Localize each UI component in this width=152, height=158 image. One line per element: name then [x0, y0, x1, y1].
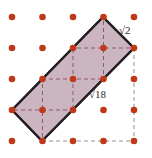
- label-sqrt2: √2: [119, 25, 131, 36]
- lattice-dot: [70, 138, 77, 145]
- lattice-dot: [39, 45, 46, 52]
- lattice-dot: [39, 107, 46, 114]
- lattice-dot: [100, 14, 107, 21]
- sqrt18-text: √18: [89, 88, 106, 100]
- lattice-dot: [70, 14, 77, 21]
- lattice-dot: [131, 14, 138, 21]
- lattice-dot: [100, 76, 107, 83]
- lattice-dot: [131, 107, 138, 114]
- lattice-dot: [100, 138, 107, 145]
- lattice-dot: [9, 76, 16, 83]
- lattice-dot: [131, 76, 138, 83]
- lattice-dot: [9, 45, 16, 52]
- lattice-dot: [131, 45, 138, 52]
- lattice-dot: [39, 14, 46, 21]
- lattice-dot: [9, 14, 16, 21]
- lattice-dot: [70, 76, 77, 83]
- lattice-dot: [9, 107, 16, 114]
- lattice-dot: [70, 45, 77, 52]
- lattice-dot: [9, 138, 16, 145]
- lattice-dot: [70, 107, 77, 114]
- lattice-dot: [100, 107, 107, 114]
- sqrt2-text: √2: [119, 24, 131, 36]
- lattice-dot: [39, 138, 46, 145]
- lattice-dot: [100, 45, 107, 52]
- lattice-dot: [39, 76, 46, 83]
- lattice-diagram: √2 √18: [0, 0, 152, 158]
- lattice-dot: [131, 138, 138, 145]
- label-sqrt18: √18: [89, 89, 106, 100]
